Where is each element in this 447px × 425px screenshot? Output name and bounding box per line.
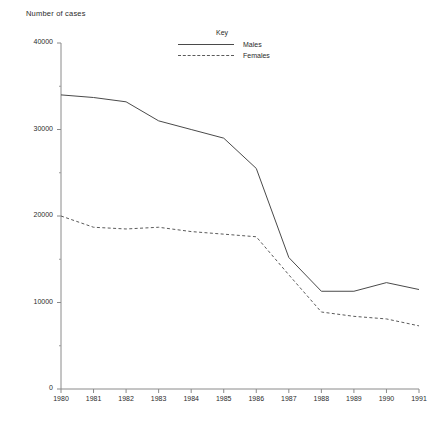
data-series-group — [61, 95, 419, 326]
y-axis-ticks — [57, 43, 61, 389]
series-line-males — [61, 95, 419, 291]
x-tick-label: 1980 — [44, 395, 78, 402]
legend-entry-females: Females — [178, 50, 308, 61]
x-tick-label: 1989 — [337, 395, 371, 402]
axes — [61, 43, 419, 389]
y-tick-label: 0 — [9, 384, 53, 391]
x-tick-label: 1988 — [304, 395, 338, 402]
x-tick-label: 1984 — [174, 395, 208, 402]
x-tick-label: 1990 — [369, 395, 403, 402]
x-tick-label: 1981 — [77, 395, 111, 402]
legend-swatch-males-icon — [178, 40, 234, 49]
y-tick-label: 30000 — [9, 125, 53, 132]
legend: Key MalesFemales — [178, 29, 308, 61]
x-tick-label: 1983 — [142, 395, 176, 402]
legend-title: Key — [178, 29, 266, 36]
legend-label: Males — [243, 41, 262, 48]
y-tick-label: 20000 — [9, 211, 53, 218]
plot-area — [0, 0, 447, 425]
legend-swatch-females-icon — [178, 51, 234, 60]
legend-entry-males: Males — [178, 39, 308, 50]
x-tick-label: 1985 — [207, 395, 241, 402]
legend-entries: MalesFemales — [178, 39, 308, 61]
legend-label: Females — [243, 52, 270, 59]
x-tick-label: 1982 — [109, 395, 143, 402]
y-tick-label: 10000 — [9, 298, 53, 305]
x-tick-label: 1986 — [239, 395, 273, 402]
x-axis-ticks — [61, 389, 419, 393]
chart-canvas: Number of cases 010000200003000040000 19… — [0, 0, 447, 425]
x-tick-label: 1991 — [402, 395, 436, 402]
x-tick-label: 1987 — [272, 395, 306, 402]
series-line-females — [61, 216, 419, 326]
y-tick-label: 40000 — [9, 38, 53, 45]
